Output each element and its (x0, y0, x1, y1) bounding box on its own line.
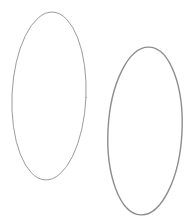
drawing-canvas (0, 0, 194, 223)
canvas-background (0, 0, 194, 223)
shape-canvas (0, 0, 194, 223)
